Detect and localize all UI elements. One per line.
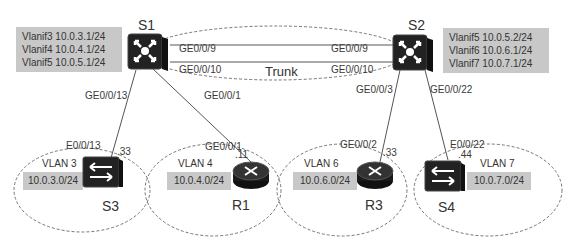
s2-label: S2 xyxy=(408,17,425,33)
router-icon-r3[interactable] xyxy=(355,159,395,191)
vlan3-label: VLAN 3 xyxy=(42,158,76,169)
core-switch-icon-s1[interactable] xyxy=(126,33,170,73)
s1-vlanif-3: Vlanif3 10.0.3.1/24 xyxy=(22,30,116,43)
r3-port-ge002: GE0/0/2 xyxy=(340,139,377,151)
s1-vlanif-box: Vlanif3 10.0.3.1/24 Vlanif4 10.0.4.1/24 … xyxy=(16,27,122,72)
s2-port-ge009: GE0/0/9 xyxy=(331,43,368,55)
s3-label: S3 xyxy=(102,198,119,214)
s1-port-ge009: GE0/0/9 xyxy=(179,43,216,55)
vlan6-label: VLAN 6 xyxy=(304,158,338,169)
s1-port-ge0010: GE0/0/10 xyxy=(179,64,221,76)
s2-vlanif-5: Vlanif5 10.0.5.2/24 xyxy=(449,31,543,44)
r3-label: R3 xyxy=(365,197,383,213)
s2-port-ge0010: GE0/0/10 xyxy=(331,64,373,76)
access-switch-icon-s4[interactable] xyxy=(424,158,466,194)
router-icon-r1[interactable] xyxy=(231,159,271,191)
s2-port-ge003: GE0/0/3 xyxy=(356,84,393,96)
vlan4-network: 10.0.4.0/24 xyxy=(167,172,231,190)
network-topology-diagram: S1 Vlanif3 10.0.3.1/24 Vlanif4 10.0.4.1/… xyxy=(0,0,569,240)
core-switch-icon-s2[interactable] xyxy=(391,34,435,74)
vlan7-label: VLAN 7 xyxy=(480,158,514,169)
s2-vlanif-box: Vlanif5 10.0.5.2/24 Vlanif6 10.0.6.1/24 … xyxy=(443,28,549,73)
r1-label: R1 xyxy=(232,197,250,213)
s3-port-e0013: E0/0/13 xyxy=(66,140,100,152)
vlan3-network: 10.0.3.0/24 xyxy=(23,172,83,190)
vlan4-label: VLAN 4 xyxy=(178,158,212,169)
vlan7-network: 10.0.7.0/24 xyxy=(467,172,531,190)
access-switch-icon-s3[interactable] xyxy=(82,154,124,190)
s2-vlanif-7: Vlanif7 10.0.7.1/24 xyxy=(449,57,543,70)
vlan6-network: 10.0.6.0/24 xyxy=(293,172,357,190)
s4-label: S4 xyxy=(438,199,455,215)
s1-port-ge0013: GE0/0/13 xyxy=(85,90,127,102)
s1-vlanif-4: Vlanif4 10.0.4.1/24 xyxy=(22,43,116,56)
s1-port-ge001: GE0/0/1 xyxy=(204,90,241,102)
trunk-label: Trunk xyxy=(265,64,298,79)
s1-vlanif-5: Vlanif5 10.0.5.1/24 xyxy=(22,56,116,69)
s2-port-ge0022: GE0/0/22 xyxy=(430,84,472,96)
s2-vlanif-6: Vlanif6 10.0.6.1/24 xyxy=(449,44,543,57)
link-s1-s3 xyxy=(111,70,136,158)
s1-label: S1 xyxy=(138,17,155,33)
r3-host-addr: .33 xyxy=(383,147,397,159)
